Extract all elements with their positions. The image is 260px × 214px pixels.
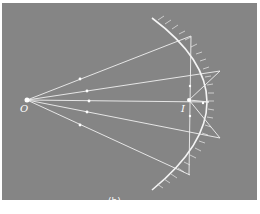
optics-diagram — [0, 0, 260, 214]
object-label: O — [20, 103, 28, 114]
concave-mirror — [152, 18, 207, 190]
image-point — [187, 98, 191, 102]
image-label: I — [181, 103, 185, 114]
figure-caption: (b) — [108, 196, 121, 206]
object-point — [25, 98, 30, 103]
reflected-rays — [189, 36, 220, 175]
